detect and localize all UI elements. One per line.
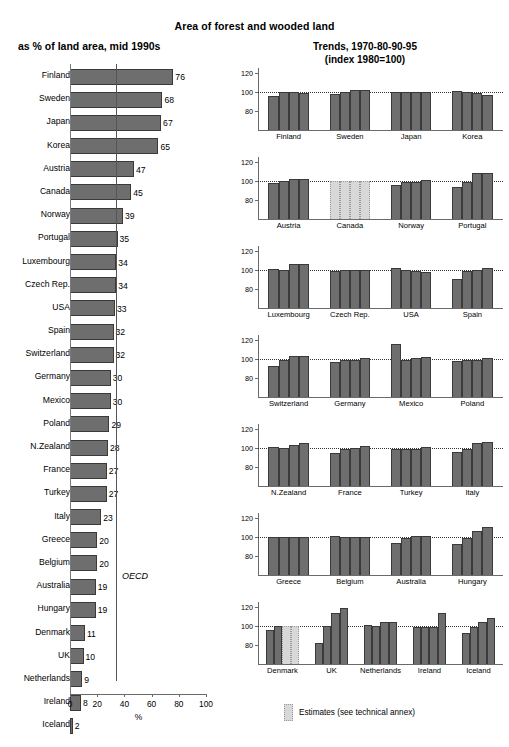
trend-bar	[268, 183, 278, 219]
forest-trends-panels: 12010080FinlandSwedenJapanKorea12010080A…	[228, 66, 509, 693]
bar-category-label: Switzerland	[26, 348, 70, 358]
trend-bar	[462, 449, 472, 486]
trend-bar	[411, 358, 421, 397]
trend-bar	[266, 630, 274, 664]
trend-group: Luxembourg	[268, 246, 308, 308]
trend-bar	[391, 543, 401, 575]
trend-group: Portugal	[452, 157, 492, 219]
trend-group: Austria	[268, 157, 308, 219]
bar-value-label: 2	[75, 721, 80, 731]
trend-bar	[372, 626, 380, 664]
bar-row: Australia19	[0, 576, 222, 599]
trend-bar	[289, 445, 299, 486]
trend-group-label: Switzerland	[269, 399, 308, 408]
bar-row: Sweden68	[0, 89, 222, 112]
trend-group-bars	[330, 157, 370, 219]
trend-bar	[452, 361, 462, 397]
trend-bar	[323, 626, 331, 664]
trend-bar	[401, 92, 411, 130]
x-axis-tick-label: 0	[68, 699, 73, 709]
trend-bar	[472, 443, 482, 486]
x-axis-tick-label: 80	[174, 699, 183, 709]
trend-bar	[421, 272, 431, 308]
trend-group: Iceland	[462, 602, 494, 664]
trend-group-label: Hungary	[458, 577, 487, 586]
trend-bar	[340, 449, 350, 486]
trend-bar	[411, 182, 421, 219]
bar-row: Japan67	[0, 112, 222, 135]
bar-track: 34	[70, 277, 206, 293]
trend-bar	[279, 270, 289, 308]
trend-bar	[299, 264, 309, 308]
trend-group-bars	[391, 335, 431, 397]
trend-group-bars	[268, 246, 308, 308]
bar-row: France27	[0, 460, 222, 483]
panel-y-tick	[255, 556, 258, 557]
trend-bar	[421, 447, 431, 486]
bar-row: Mexico30	[0, 391, 222, 414]
panel-x-axis	[258, 486, 503, 487]
bar	[70, 69, 173, 85]
bar-value-label: 76	[175, 72, 185, 82]
trend-group-bars	[330, 335, 370, 397]
trend-bar	[482, 95, 492, 130]
trend-group: Switzerland	[268, 335, 308, 397]
bar-row: Spain32	[0, 321, 222, 344]
bar-track: 32	[70, 347, 206, 363]
bar-category-label: Italy	[54, 511, 70, 521]
panel-y-tick	[255, 518, 258, 519]
trend-bar	[299, 179, 309, 219]
bar	[70, 671, 82, 687]
trend-group-label: Poland	[461, 399, 485, 408]
trend-bar	[462, 271, 472, 308]
trend-bar	[360, 446, 370, 486]
trend-bar	[274, 626, 282, 664]
trend-bar	[289, 537, 299, 575]
trend-bar	[299, 537, 309, 575]
trend-bar	[350, 90, 360, 130]
trend-bar	[401, 360, 411, 397]
bar-track: 45	[70, 184, 206, 200]
bar-category-label: Japan	[47, 116, 70, 126]
bar	[70, 254, 116, 270]
bar	[70, 555, 97, 571]
trend-group: Canada	[330, 157, 370, 219]
bar-row: Netherlands9	[0, 669, 222, 692]
bar-value-label: 39	[125, 211, 135, 221]
bar-category-label: Belgium	[39, 557, 70, 567]
bar	[70, 161, 134, 177]
panel-y-tick-label: 120	[232, 602, 253, 611]
trend-group-label: Canada	[337, 221, 364, 230]
trend-group-bars	[391, 157, 431, 219]
trend-group-label: Iceland	[466, 666, 491, 675]
bar-category-label: Poland	[43, 418, 70, 428]
panel-y-tick-label: 100	[232, 87, 253, 96]
trend-group-bars	[330, 246, 370, 308]
bar-track: 47	[70, 161, 206, 177]
trend-group-label: UK	[326, 666, 337, 675]
trend-group-bars	[315, 602, 347, 664]
trend-bar	[462, 182, 472, 219]
left-chart-x-title: %	[70, 712, 207, 722]
panel-x-axis	[258, 308, 503, 309]
x-axis-tick	[152, 694, 153, 697]
trend-bar	[360, 358, 370, 397]
trend-panel: 12010080LuxembourgCzech Rep.USASpain	[228, 244, 509, 332]
trend-bar	[438, 613, 446, 664]
trend-group-bars	[452, 513, 492, 575]
trend-bar	[411, 449, 421, 486]
trend-group-label: Spain	[463, 310, 482, 319]
bar-value-label: 20	[99, 536, 109, 546]
bar-category-label: Canada	[40, 186, 70, 196]
trend-bar	[360, 90, 370, 130]
trend-group: Denmark	[266, 602, 298, 664]
trend-group-bars	[391, 246, 431, 308]
x-axis-tick	[206, 694, 207, 697]
bar-row: Denmark11	[0, 623, 222, 646]
panel-x-axis	[258, 575, 503, 576]
bar	[70, 393, 111, 409]
trend-group-label: Italy	[465, 488, 479, 497]
trend-group-label: Czech Rep.	[330, 310, 370, 319]
bar	[70, 648, 84, 664]
trend-group: USA	[391, 246, 431, 308]
